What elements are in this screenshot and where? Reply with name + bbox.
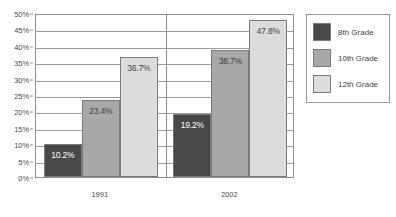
legend-swatch bbox=[313, 75, 331, 93]
y-axis-tick-mark bbox=[30, 161, 33, 162]
bar-value-label: 36.7% bbox=[127, 63, 150, 73]
y-axis-tick-mark bbox=[30, 30, 33, 31]
y-axis-tick-label: 50% bbox=[14, 10, 29, 19]
legend: 8th Grade10th Grade12th Grade bbox=[306, 14, 390, 103]
bar-value-label: 23.4% bbox=[89, 106, 112, 116]
bar: 36.7% bbox=[120, 57, 158, 177]
bar-value-label: 10.2% bbox=[51, 150, 74, 160]
y-axis-tick-mark bbox=[30, 128, 33, 129]
y-axis-tick-label: 45% bbox=[14, 26, 29, 35]
bar: 10.2% bbox=[44, 144, 82, 177]
y-axis-tick-mark bbox=[30, 145, 33, 146]
y-axis-tick-label: 20% bbox=[14, 108, 29, 117]
y-axis-tick-label: 0% bbox=[18, 174, 29, 183]
x-axis-tick-label: 1991 bbox=[91, 190, 108, 199]
plot-area: 10.2%23.4%36.7%19.2%38.7%47.8% bbox=[35, 14, 294, 178]
y-axis-tick-label: 5% bbox=[18, 157, 29, 166]
y-axis-tick-mark bbox=[30, 63, 33, 64]
legend-label: 12th Grade bbox=[338, 80, 378, 89]
bar-value-label: 38.7% bbox=[219, 56, 242, 66]
y-axis-tick-label: 25% bbox=[14, 92, 29, 101]
legend-item[interactable]: 10th Grade bbox=[313, 49, 378, 67]
x-axis-tick-label: 2002 bbox=[221, 190, 238, 199]
y-axis-tick-mark bbox=[30, 178, 33, 179]
bar: 23.4% bbox=[82, 100, 120, 177]
bars-layer: 10.2%23.4%36.7%19.2%38.7%47.8% bbox=[36, 15, 293, 177]
legend-label: 8th Grade bbox=[338, 28, 374, 37]
y-axis-tick-label: 40% bbox=[14, 42, 29, 51]
legend-swatch bbox=[313, 49, 331, 67]
y-axis-tick-label: 30% bbox=[14, 75, 29, 84]
legend-label: 10th Grade bbox=[338, 54, 378, 63]
bar: 38.7% bbox=[211, 50, 249, 177]
y-axis-tick-label: 10% bbox=[14, 141, 29, 150]
bar-value-label: 47.8% bbox=[257, 26, 280, 36]
y-axis-tick-mark bbox=[30, 79, 33, 80]
y-axis-tick-mark bbox=[30, 46, 33, 47]
x-axis: 19912002 bbox=[35, 182, 294, 202]
legend-item[interactable]: 8th Grade bbox=[313, 23, 374, 41]
category-separator bbox=[166, 15, 167, 177]
bar: 19.2% bbox=[173, 114, 211, 177]
legend-item[interactable]: 12th Grade bbox=[313, 75, 378, 93]
bar: 47.8% bbox=[249, 20, 287, 177]
bar-chart: 0%5%10%15%20%25%30%35%40%45%50% 10.2%23.… bbox=[0, 0, 396, 217]
y-axis-tick-mark bbox=[30, 96, 33, 97]
y-axis: 0%5%10%15%20%25%30%35%40%45%50% bbox=[0, 14, 33, 178]
bar-value-label: 19.2% bbox=[181, 120, 204, 130]
y-axis-tick-label: 15% bbox=[14, 124, 29, 133]
legend-swatch bbox=[313, 23, 331, 41]
y-axis-tick-label: 35% bbox=[14, 59, 29, 68]
y-axis-tick-mark bbox=[30, 14, 33, 15]
y-axis-tick-mark bbox=[30, 112, 33, 113]
